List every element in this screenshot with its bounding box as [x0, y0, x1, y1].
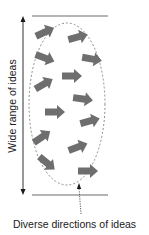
idea-arrow-icon [62, 69, 82, 83]
axis-down-arrowhead-icon [21, 189, 26, 195]
caption-pointer-line [79, 188, 81, 214]
idea-arrow-icon [33, 21, 57, 42]
idea-arrow-icon [45, 105, 65, 119]
idea-arrow-icon [35, 151, 59, 175]
idea-arrow-icon [32, 73, 56, 95]
caption-pointer-arrowhead-icon [77, 183, 81, 189]
idea-arrow-icon [78, 164, 98, 178]
idea-arrow-icon [72, 91, 94, 108]
idea-arrow-icon [66, 137, 90, 157]
idea-arrow-icon [30, 126, 54, 149]
idea-arrow-icon [67, 28, 90, 47]
idea-arrow-icon [33, 48, 57, 68]
axis-up-arrowhead-icon [21, 16, 26, 22]
diagram-caption: Diverse directions of ideas [0, 218, 149, 230]
diagram-canvas [0, 0, 149, 235]
axis-label: Wide range of ideas [6, 59, 18, 152]
ideas-diagram: Wide range of ideas Diverse directions o… [0, 0, 149, 235]
idea-arrow-icon [81, 50, 103, 67]
idea-arrow-icon [79, 112, 102, 131]
